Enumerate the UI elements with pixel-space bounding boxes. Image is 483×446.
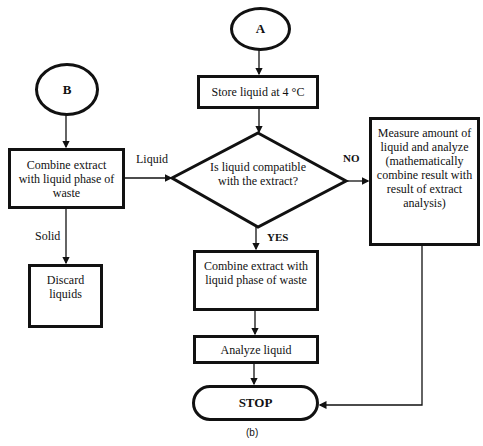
analyze-box: Analyze liquid — [193, 335, 319, 364]
combine-center-text: Combine extract with liquid phase of was… — [200, 259, 312, 287]
connector-a-label: A — [256, 21, 265, 37]
store-liquid-text: Store liquid at 4 °C — [212, 85, 305, 99]
discard-text: Discard liquids — [37, 273, 94, 301]
stop-terminal: STOP — [192, 385, 319, 421]
analyze-text: Analyze liquid — [221, 343, 292, 357]
stop-text: STOP — [239, 396, 273, 410]
decision-text: Is liquid compatible with the extract? — [208, 160, 308, 188]
combine-left-text: Combine extract with liquid phase of was… — [15, 158, 118, 200]
store-liquid-box: Store liquid at 4 °C — [197, 75, 319, 109]
measure-box: Measure amount of liquid and analyze (ma… — [369, 117, 480, 246]
connector-b-label: B — [63, 82, 72, 98]
edge-label-liquid: Liquid — [136, 152, 168, 167]
combine-center-box: Combine extract with liquid phase of was… — [193, 250, 319, 311]
edge-label-yes: YES — [267, 231, 288, 243]
measure-text: Measure amount of liquid and analyze (ma… — [376, 126, 473, 210]
connector-a: A — [230, 7, 291, 51]
figure-caption: (b) — [246, 427, 258, 438]
combine-left-box: Combine extract with liquid phase of was… — [8, 148, 125, 209]
connector-b: B — [35, 63, 99, 116]
discard-box: Discard liquids — [28, 264, 103, 328]
edge-label-solid: Solid — [35, 229, 60, 244]
edge-label-no: NO — [343, 152, 360, 164]
